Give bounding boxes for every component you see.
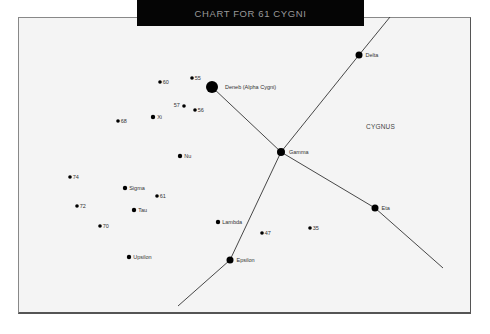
star-icon (68, 175, 72, 179)
star-label: Xi (157, 114, 162, 120)
star-label: Upsilon (133, 254, 151, 260)
star-icon (193, 108, 197, 112)
star-label: Epsilon (237, 257, 255, 263)
star-icon (206, 81, 218, 93)
star-icon (308, 226, 312, 230)
star-label: Delta (366, 52, 379, 58)
star-icon (155, 194, 159, 198)
constellation-line (281, 152, 375, 208)
star-label: 56 (198, 107, 204, 113)
star-icon (116, 119, 120, 123)
constellation-line (281, 55, 359, 152)
star-icon (75, 204, 79, 208)
star-label: 74 (73, 174, 79, 180)
star-icon (216, 220, 220, 224)
star-icon (98, 224, 102, 228)
star-icon (182, 104, 186, 108)
star-icon (190, 76, 194, 80)
star-label: 70 (103, 223, 109, 229)
constellation-line (359, 17, 390, 55)
star-label: 60 (163, 79, 169, 85)
star-label: 57 (174, 102, 180, 108)
star-icon (123, 186, 127, 190)
star-icon (277, 148, 285, 156)
star-label: Eta (382, 205, 390, 211)
star-icon (356, 52, 363, 59)
constellation-line (212, 87, 281, 152)
star-icon (372, 205, 379, 212)
star-label: Deneb (Alpha Cygni) (225, 84, 276, 90)
star-icon (158, 80, 162, 84)
star-label: 35 (313, 225, 319, 231)
star-label: Nu (184, 153, 191, 159)
star-icon (132, 208, 136, 212)
constellation-line (230, 152, 281, 260)
constellation-label: CYGNUS (366, 123, 395, 130)
star-label: Tau (138, 207, 147, 213)
star-icon (227, 257, 234, 264)
star-label: 61 (160, 193, 166, 199)
star-label: Gamma (289, 149, 309, 155)
star-label: 72 (80, 203, 86, 209)
star-label: Lambda (222, 219, 242, 225)
star-label: 68 (121, 118, 127, 124)
star-icon (151, 115, 155, 119)
star-icon (178, 154, 182, 158)
star-label: 55 (195, 75, 201, 81)
star-map (0, 0, 490, 334)
constellation-line (375, 208, 443, 268)
star-icon (127, 255, 131, 259)
star-label: 47 (265, 230, 271, 236)
star-icon (260, 231, 264, 235)
star-label: Sigma (129, 185, 145, 191)
constellation-line (178, 260, 230, 306)
